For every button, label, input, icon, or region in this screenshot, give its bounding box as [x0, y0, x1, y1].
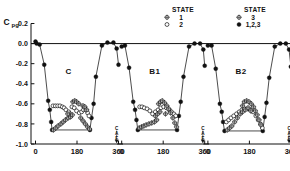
y-axis-tick-label: -0.2	[16, 60, 28, 67]
data-point	[203, 64, 207, 68]
series-line	[122, 44, 205, 130]
data-point	[127, 66, 131, 70]
y-axis-tick-label: -0.4	[16, 80, 28, 87]
panel-label: B1	[149, 67, 160, 76]
data-point	[133, 108, 137, 112]
panel-annotation-arrowhead	[287, 140, 290, 143]
legend-title: STATE	[172, 6, 194, 13]
y-axis-title: C	[4, 17, 10, 27]
data-point	[218, 102, 222, 106]
panel-annotation-arrowhead	[201, 140, 204, 143]
panel-label: B2	[235, 67, 246, 76]
chart-figure: 0.20.0-0.2-0.4-0.6-0.8-1.0Cpg0180360CCAF…	[0, 0, 290, 171]
data-point	[198, 42, 202, 46]
data-point	[206, 44, 210, 48]
x-axis-tick-label: 180	[243, 147, 256, 156]
data-point	[278, 42, 282, 46]
data-point	[134, 118, 138, 122]
y-axis-tick-label: 0.0	[18, 40, 28, 47]
data-point	[94, 75, 98, 79]
data-point	[38, 43, 42, 47]
y-axis-tick-label: -1.0	[16, 141, 28, 148]
data-point	[284, 42, 288, 46]
data-point	[46, 99, 50, 103]
data-point	[92, 102, 96, 106]
data-point	[181, 75, 185, 79]
series-line	[36, 42, 119, 130]
data-point	[123, 44, 127, 48]
data-point	[42, 63, 46, 67]
data-point	[289, 65, 290, 69]
data-point	[264, 101, 268, 105]
y-axis-tick-label: -0.8	[16, 121, 28, 128]
data-point	[214, 67, 218, 71]
data-point	[131, 100, 135, 104]
data-point	[100, 44, 104, 48]
legend-marker	[237, 23, 241, 27]
legend-marker	[165, 23, 169, 27]
x-axis-tick-label: 0	[206, 147, 210, 156]
series-line	[208, 44, 290, 131]
data-point	[267, 76, 271, 80]
data-point	[263, 115, 267, 119]
x-axis-tick-label: 180	[71, 147, 84, 156]
x-axis-tick-label: 360	[285, 147, 290, 156]
data-point	[210, 44, 214, 48]
panel-label: C	[66, 67, 72, 76]
legend-title: STATE	[244, 6, 266, 13]
x-axis-tick-label: 0	[120, 147, 124, 156]
data-point	[111, 41, 115, 45]
legend-entry-label: 1	[179, 14, 183, 21]
data-point	[287, 48, 290, 52]
data-point	[220, 110, 224, 114]
legend-entry-label: 1,2,3	[246, 21, 261, 29]
data-point	[87, 114, 91, 118]
data-point	[48, 108, 52, 112]
data-point	[49, 120, 53, 124]
x-axis-tick-label: 180	[157, 147, 170, 156]
x-axis-tick-label: 0	[33, 147, 37, 156]
data-point	[115, 47, 119, 51]
data-point	[193, 42, 197, 46]
data-point	[201, 48, 205, 52]
legend-entry-label: 2	[179, 21, 183, 28]
data-point	[273, 45, 277, 49]
data-point	[117, 63, 121, 67]
legend-entry-label: 3	[251, 14, 255, 21]
y-axis-tick-label: 0.2	[18, 20, 28, 27]
data-point	[105, 41, 109, 45]
panel-annotation-arrowhead	[115, 140, 118, 143]
chart-svg: 0.20.0-0.2-0.4-0.6-0.8-1.0Cpg0180360CCAF…	[0, 0, 290, 171]
y-axis-tick-label: -0.6	[16, 100, 28, 107]
data-point	[179, 100, 183, 104]
y-axis-title-subscript: pg	[12, 22, 20, 28]
data-point	[187, 45, 191, 49]
